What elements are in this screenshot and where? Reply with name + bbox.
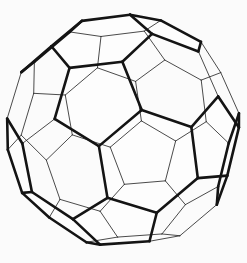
polyhedron-edge-visible [7, 119, 8, 150]
figure-root: Line drawing of a truncated icosahedron … [0, 0, 247, 263]
truncated-icosahedron-diagram [0, 0, 247, 263]
